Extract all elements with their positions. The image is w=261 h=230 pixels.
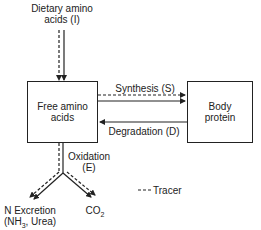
free-amino-line-1: Free amino bbox=[37, 101, 88, 112]
nh-prefix: (NH bbox=[4, 216, 22, 227]
tracer-legend-label: Tracer bbox=[153, 185, 182, 196]
free-amino-acids-box: Free amino acids bbox=[27, 81, 98, 143]
n-excretion-label: N Excretion (NH3, Urea) bbox=[0, 205, 60, 230]
co2-prefix: CO bbox=[86, 205, 101, 216]
n-excretion-line-2: (NH3, Urea) bbox=[0, 216, 60, 230]
free-amino-line-2: acids bbox=[37, 112, 88, 123]
urea-suffix: , Urea) bbox=[26, 216, 57, 227]
n-excretion-line-1: N Excretion bbox=[0, 205, 60, 216]
co2-subscript: 2 bbox=[101, 211, 105, 218]
synthesis-label: Synthesis (S) bbox=[110, 83, 180, 94]
dietary-amino-acids-label: Dietary amino acids (I) bbox=[20, 3, 104, 25]
oxidation-line-2: (E) bbox=[66, 162, 112, 173]
body-protein-box: Body protein bbox=[187, 81, 253, 143]
degradation-label: Degradation (D) bbox=[104, 126, 184, 137]
co2-label: CO2 bbox=[80, 205, 110, 220]
oxidation-label: Oxidation (E) bbox=[66, 151, 112, 173]
dietary-line-2: acids (I) bbox=[20, 14, 104, 25]
dietary-line-1: Dietary amino bbox=[20, 3, 104, 14]
oxidation-line-1: Oxidation bbox=[66, 151, 112, 162]
body-protein-line-1: Body bbox=[205, 101, 236, 112]
body-protein-line-2: protein bbox=[205, 112, 236, 123]
